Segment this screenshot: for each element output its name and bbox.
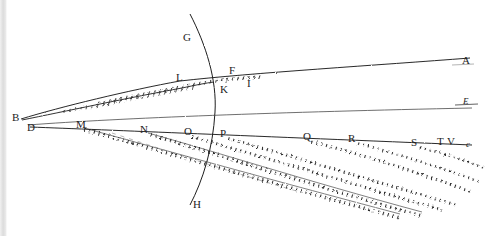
label-H: H (193, 199, 201, 210)
label-R: R (348, 133, 356, 144)
label-S: S (411, 137, 417, 148)
fan-ray-n-edge (148, 133, 422, 212)
fan-ray-n (148, 134, 422, 216)
label-Q: Q (303, 131, 311, 142)
label-F: F (229, 65, 235, 76)
arc-gkh (190, 14, 215, 205)
label-N: N (140, 124, 148, 135)
label-I: I (247, 78, 251, 89)
fan-ray-r (356, 143, 480, 182)
label-c: c (466, 139, 470, 150)
fan-ray-group (84, 128, 484, 218)
baseline-d-to-c (30, 127, 472, 145)
label-D: D (27, 122, 35, 133)
label-B: B (12, 112, 20, 123)
label-K: K (220, 84, 228, 95)
label-P: P (220, 128, 226, 139)
diagram-canvas (0, 0, 490, 236)
fan-ray-o (190, 136, 442, 210)
beam-band-lf-2 (60, 87, 196, 112)
label-M: M (76, 119, 86, 130)
label-V: V (447, 136, 455, 147)
axis-d-to-e (28, 108, 472, 125)
label-E: E (463, 96, 469, 107)
label-T: T (437, 136, 444, 147)
figure-plate: A B D E F G H I K L M N O P Q R S T V c (0, 0, 490, 236)
label-L: L (176, 72, 183, 83)
label-A: A (462, 55, 470, 66)
label-G: G (183, 32, 191, 43)
label-O: O (184, 126, 192, 137)
